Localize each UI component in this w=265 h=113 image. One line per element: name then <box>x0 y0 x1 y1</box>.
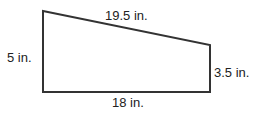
trapezoid-diagram: 19.5 in. 5 in. 3.5 in. 18 in. <box>0 0 265 113</box>
bottom-side-label: 18 in. <box>112 96 144 109</box>
trapezoid-outline <box>43 11 210 92</box>
top-side-label: 19.5 in. <box>105 9 148 22</box>
right-side-label: 3.5 in. <box>214 66 249 79</box>
left-side-label: 5 in. <box>7 51 32 64</box>
